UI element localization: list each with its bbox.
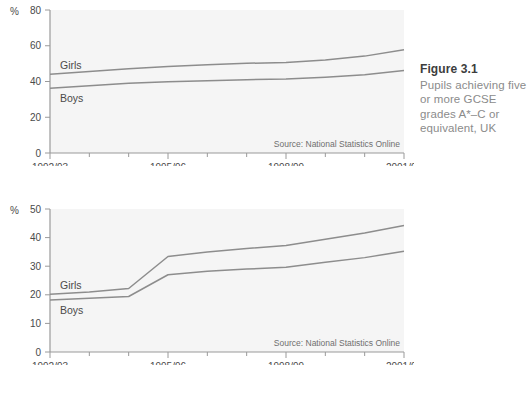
chart-3-2-canvas: 010203040501992/931995/961998/992001/02G… [14, 203, 414, 365]
series-label-girls: Girls [60, 279, 82, 291]
y-tick-label: 10 [30, 318, 42, 329]
x-tick-label: 2001/02 [386, 361, 414, 365]
series-label-boys: Boys [60, 304, 83, 316]
x-tick-label: 1995/96 [150, 162, 187, 166]
plot-area [50, 209, 404, 352]
y-tick-label: 0 [35, 148, 41, 159]
figure-3-1-title: Figure 3.1 [420, 62, 528, 77]
y-tick-label: 40 [30, 76, 42, 87]
y-tick-label: 0 [35, 347, 41, 358]
x-tick-label: 1992/93 [32, 361, 69, 365]
figure-3-1: % 0204060801992/931995/961998/992001/02G… [0, 0, 528, 199]
y-tick-label: 50 [30, 204, 42, 215]
y-tick-label: 60 [30, 40, 42, 51]
x-tick-label: 1998/99 [268, 361, 305, 365]
source-note: Source: National Statistics Online [274, 139, 400, 149]
plot-area [50, 10, 404, 153]
series-label-boys: Boys [60, 92, 83, 104]
x-tick-label: 1998/99 [268, 162, 305, 166]
x-tick-label: 1992/93 [32, 162, 69, 166]
source-note: Source: National Statistics Online [274, 338, 400, 348]
y-tick-label: 20 [30, 112, 42, 123]
chart-3-2: 010203040501992/931995/961998/992001/02G… [14, 203, 414, 365]
chart-3-1-canvas: 0204060801992/931995/961998/992001/02Gir… [14, 4, 414, 166]
figure-3-1-caption: Figure 3.1 Pupils achieving five or more… [420, 62, 528, 136]
figures-page: % 0204060801992/931995/961998/992001/02G… [0, 0, 528, 398]
figure-3-1-description: Pupils achieving five or more GCSE grade… [420, 78, 528, 136]
y-tick-label: 30 [30, 261, 42, 272]
y-tick-label: 80 [30, 5, 42, 16]
chart-3-1: 0204060801992/931995/961998/992001/02Gir… [14, 4, 414, 166]
x-tick-label: 2001/02 [386, 162, 414, 166]
figure-3-2: % 010203040501992/931995/961998/992001/0… [0, 199, 528, 398]
y-tick-label: 40 [30, 232, 42, 243]
x-tick-label: 1995/96 [150, 361, 187, 365]
y-tick-label: 20 [30, 289, 42, 300]
series-label-girls: Girls [60, 59, 82, 71]
